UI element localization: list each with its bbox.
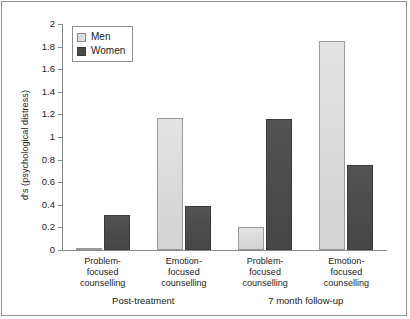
category-label-1: Emotion-focusedcounselling bbox=[143, 256, 224, 289]
y-tick-mark bbox=[58, 47, 62, 48]
category-label-line: focused bbox=[62, 267, 143, 278]
y-axis-title: d's (psychological distress) bbox=[20, 35, 30, 255]
y-tick-label: 0.2 bbox=[42, 223, 55, 233]
bar-chart-figure: d's (psychological distress) 00.20.40.60… bbox=[0, 0, 410, 319]
y-tick-label: 1.8 bbox=[42, 42, 55, 52]
y-tick-mark bbox=[58, 160, 62, 161]
bar-women-2 bbox=[266, 119, 292, 250]
x-axis-line bbox=[62, 250, 387, 251]
category-label-line: counselling bbox=[225, 278, 306, 289]
panel-label-1: 7 month follow-up bbox=[225, 296, 388, 306]
y-tick-label: 1.2 bbox=[42, 110, 55, 120]
category-label-line: Emotion- bbox=[143, 256, 224, 267]
legend-item-men: Men bbox=[77, 30, 125, 44]
category-label-line: counselling bbox=[62, 278, 143, 289]
y-tick-mark bbox=[58, 205, 62, 206]
legend-swatch-women bbox=[77, 47, 86, 56]
y-tick-label: 0.6 bbox=[42, 177, 55, 187]
y-tick-mark bbox=[58, 227, 62, 228]
y-tick-label: 0.8 bbox=[42, 155, 55, 165]
category-label-line: focused bbox=[306, 267, 387, 278]
y-tick-label: 0 bbox=[50, 245, 55, 255]
bar-women-0 bbox=[104, 215, 130, 250]
bar-men-1 bbox=[157, 118, 183, 250]
y-tick-label: 1.6 bbox=[42, 64, 55, 74]
category-label-2: Problem-focusedcounselling bbox=[225, 256, 306, 289]
category-label-3: Emotion-focusedcounselling bbox=[306, 256, 387, 289]
bar-men-3 bbox=[319, 41, 345, 250]
category-label-line: counselling bbox=[306, 278, 387, 289]
y-tick-mark bbox=[58, 69, 62, 70]
legend-label: Men bbox=[91, 32, 110, 42]
y-tick-mark bbox=[58, 24, 62, 25]
category-label-line: Emotion- bbox=[306, 256, 387, 267]
bar-men-2 bbox=[238, 227, 264, 250]
category-label-line: focused bbox=[225, 267, 306, 278]
y-tick-mark bbox=[58, 92, 62, 93]
legend-label: Women bbox=[91, 46, 125, 56]
panel-label-0: Post-treatment bbox=[62, 296, 225, 306]
legend-swatch-men bbox=[77, 33, 86, 42]
y-tick-label: 1 bbox=[50, 132, 55, 142]
category-label-line: Problem- bbox=[62, 256, 143, 267]
category-label-line: focused bbox=[143, 267, 224, 278]
y-tick-mark bbox=[58, 250, 62, 251]
bar-group bbox=[319, 24, 373, 250]
bar-women-1 bbox=[185, 206, 211, 250]
category-label-line: Problem- bbox=[225, 256, 306, 267]
legend-item-women: Women bbox=[77, 44, 125, 58]
bar-group bbox=[238, 24, 292, 250]
y-axis-line bbox=[62, 24, 63, 250]
chart-legend: MenWomen bbox=[72, 26, 133, 62]
y-tick-label: 0.4 bbox=[42, 200, 55, 210]
y-tick-mark bbox=[58, 114, 62, 115]
bar-group bbox=[157, 24, 211, 250]
bar-men-0 bbox=[76, 248, 102, 250]
y-tick-mark bbox=[58, 182, 62, 183]
y-tick-mark bbox=[58, 137, 62, 138]
bar-women-3 bbox=[347, 165, 373, 250]
y-tick-label: 1.4 bbox=[42, 87, 55, 97]
category-label-line: counselling bbox=[143, 278, 224, 289]
category-label-0: Problem-focusedcounselling bbox=[62, 256, 143, 289]
y-tick-label: 2 bbox=[50, 19, 55, 29]
